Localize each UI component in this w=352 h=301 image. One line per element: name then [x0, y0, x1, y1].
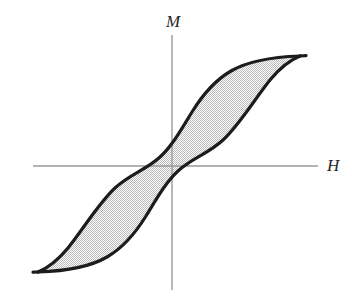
axis-label-magnetization: M: [166, 13, 180, 30]
axis-label-field: H: [327, 157, 339, 174]
hysteresis-figure: M H: [0, 0, 352, 301]
hysteresis-plot-canvas: [0, 0, 352, 301]
loop-shaded-area: [38, 56, 300, 272]
